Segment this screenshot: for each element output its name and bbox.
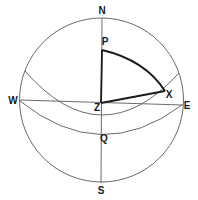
diagram-canvas [0,0,198,200]
label-south: S [98,186,105,196]
celestial-sphere-diagram: N S W E P Z X Q [0,0,198,200]
label-pole: P [102,37,109,47]
pole-star-arc [102,50,165,91]
label-equator-point: Q [100,134,108,144]
label-star: X [166,90,173,100]
zenith-pole-line [101,50,102,103]
star-zenith-line [101,91,165,103]
label-east: E [184,101,191,111]
label-zenith: Z [94,103,100,113]
label-north: N [98,6,105,16]
label-west: W [8,96,17,106]
